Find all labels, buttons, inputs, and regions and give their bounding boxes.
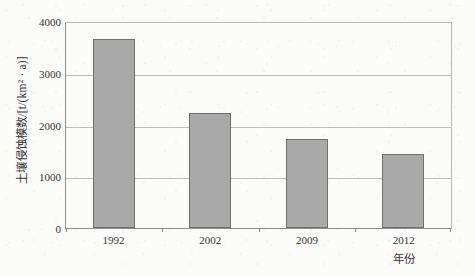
x-tick-label-2009: 2009 [259,234,356,246]
bar-slot-2002 [162,23,258,228]
bar-1992 [93,39,135,228]
bar-2012 [382,154,424,228]
x-tick-mark-0 [66,228,67,232]
x-axis-title-label: 年份 [355,250,452,266]
bar-chart-figure: 土壤侵蚀模数/[t/(km² · a)] 0 1000 2000 3000 40… [0,0,475,276]
bar-slot-2012 [355,23,451,228]
y-tick-label-2000: 2000 [31,120,61,131]
plot-area [65,22,452,229]
bar-slot-2009 [259,23,355,228]
x-tick-mark-2 [259,228,260,232]
bar-2002 [189,113,231,228]
x-tick-mark-1 [162,228,163,232]
x-tick-label-2012: 2012 [355,234,452,246]
bar-slot-1992 [66,23,162,228]
y-tick-label-0: 0 [31,224,61,235]
y-tick-label-1000: 1000 [31,172,61,183]
x-tick-label-2002: 2002 [162,234,259,246]
y-tick-label-4000: 4000 [31,17,61,28]
x-axis-title: 年份 [65,250,452,266]
bar-2009 [286,139,328,228]
x-axis-tick-labels: 1992 2002 2009 2012 [65,234,452,246]
x-tick-mark-3 [355,228,356,232]
y-axis-tick-labels: 0 1000 2000 3000 4000 [27,0,61,276]
bars-layer [66,23,451,228]
x-tick-mark-4 [450,228,451,232]
y-tick-label-3000: 3000 [31,68,61,79]
x-tick-label-1992: 1992 [65,234,162,246]
